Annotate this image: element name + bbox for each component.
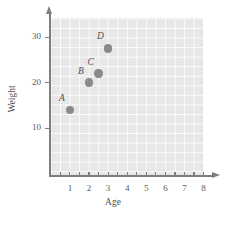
data-point-a xyxy=(66,106,74,114)
x-axis-tick xyxy=(184,172,185,177)
x-axis-tick xyxy=(88,172,89,177)
x-axis-tick-label: 2 xyxy=(81,183,97,193)
data-point-label-b: B xyxy=(78,66,84,76)
data-point-d xyxy=(104,44,112,52)
data-point-label-d: D xyxy=(97,31,104,41)
y-axis-tick xyxy=(45,128,51,129)
x-axis-tick-label: 4 xyxy=(119,183,135,193)
x-axis-tick xyxy=(127,172,128,177)
x-axis-tick-label: 6 xyxy=(157,183,173,193)
x-axis-tick-label: 3 xyxy=(100,183,116,193)
x-axis-title: Age xyxy=(0,197,226,207)
x-axis-tick-label: 5 xyxy=(138,183,154,193)
data-point-b xyxy=(85,78,93,86)
y-axis-arrow-icon xyxy=(46,6,52,14)
x-axis-minor-tick xyxy=(155,172,156,177)
y-axis-tick xyxy=(45,37,51,38)
x-axis-minor-tick xyxy=(98,172,99,177)
x-axis-tick-label: 7 xyxy=(177,183,193,193)
x-axis-minor-tick xyxy=(79,172,80,177)
plot-area xyxy=(50,18,203,176)
x-axis-tick-label: 8 xyxy=(196,183,212,193)
y-axis-title: Weight xyxy=(7,69,17,129)
x-axis-minor-tick xyxy=(136,172,137,177)
x-axis-arrow-icon xyxy=(212,172,220,178)
y-axis-tick-label: 10 xyxy=(21,122,41,132)
y-axis-tick-label: 20 xyxy=(21,77,41,87)
x-axis-minor-tick xyxy=(117,172,118,177)
x-axis-minor-tick xyxy=(193,172,194,177)
data-point-c xyxy=(94,69,102,77)
x-axis-tick xyxy=(69,172,70,177)
x-axis-tick-label: 1 xyxy=(62,183,78,193)
y-axis-tick-label: 30 xyxy=(21,31,41,41)
x-axis-minor-tick xyxy=(174,172,175,177)
data-point-label-a: A xyxy=(59,93,65,103)
x-axis-line xyxy=(49,175,214,177)
x-axis-tick xyxy=(203,172,204,177)
y-axis-tick xyxy=(45,82,51,83)
x-axis-tick xyxy=(146,172,147,177)
data-point-label-c: C xyxy=(88,57,94,67)
x-axis-minor-tick xyxy=(60,172,61,177)
scatter-plot-figure: 12345678 102030 ABCD Age Weight xyxy=(0,0,226,227)
x-axis-tick xyxy=(108,172,109,177)
x-axis-tick xyxy=(165,172,166,177)
